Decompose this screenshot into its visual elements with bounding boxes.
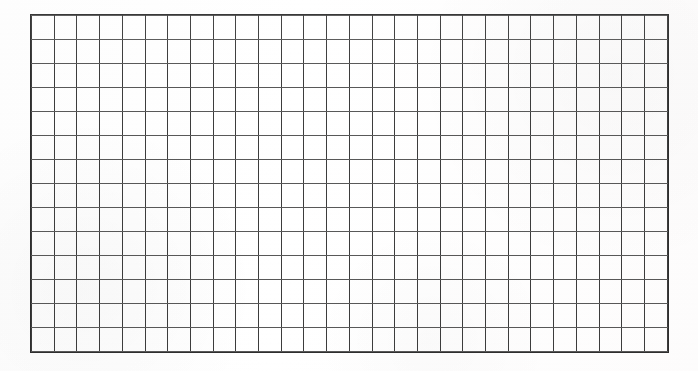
grid-cell[interactable] <box>486 280 509 304</box>
grid-cell[interactable] <box>372 304 395 328</box>
grid-cell[interactable] <box>644 64 667 88</box>
grid-cell[interactable] <box>122 40 145 64</box>
grid-cell[interactable] <box>259 208 282 232</box>
grid-cell[interactable] <box>372 184 395 208</box>
grid-cell[interactable] <box>349 280 372 304</box>
grid-cell[interactable] <box>168 64 191 88</box>
grid-cell[interactable] <box>327 112 350 136</box>
grid-cell[interactable] <box>32 160 55 184</box>
grid-cell[interactable] <box>122 136 145 160</box>
grid-cell[interactable] <box>395 88 418 112</box>
grid-cell[interactable] <box>190 184 213 208</box>
grid-cell[interactable] <box>644 184 667 208</box>
grid-cell[interactable] <box>54 208 77 232</box>
grid-cell[interactable] <box>531 304 554 328</box>
grid-cell[interactable] <box>213 328 236 352</box>
grid-cell[interactable] <box>281 304 304 328</box>
grid-cell[interactable] <box>304 280 327 304</box>
grid-cell[interactable] <box>576 280 599 304</box>
grid-cell[interactable] <box>622 304 645 328</box>
grid-cell[interactable] <box>349 208 372 232</box>
grid-cell[interactable] <box>100 328 123 352</box>
grid-cell[interactable] <box>168 112 191 136</box>
grid-cell[interactable] <box>145 328 168 352</box>
grid-cell[interactable] <box>622 16 645 40</box>
grid-cell[interactable] <box>508 40 531 64</box>
grid-cell[interactable] <box>508 112 531 136</box>
grid-cell[interactable] <box>644 40 667 64</box>
grid-cell[interactable] <box>327 136 350 160</box>
grid-cell[interactable] <box>327 16 350 40</box>
grid-cell[interactable] <box>304 64 327 88</box>
grid-cell[interactable] <box>463 112 486 136</box>
grid-cell[interactable] <box>463 184 486 208</box>
grid-cell[interactable] <box>32 304 55 328</box>
grid-cell[interactable] <box>486 40 509 64</box>
grid-cell[interactable] <box>508 328 531 352</box>
grid-cell[interactable] <box>349 40 372 64</box>
grid-cell[interactable] <box>531 112 554 136</box>
grid-cell[interactable] <box>486 112 509 136</box>
grid-cell[interactable] <box>531 88 554 112</box>
grid-cell[interactable] <box>100 304 123 328</box>
grid-cell[interactable] <box>486 136 509 160</box>
grid-cell[interactable] <box>372 88 395 112</box>
grid-cell[interactable] <box>440 40 463 64</box>
grid-cell[interactable] <box>395 304 418 328</box>
grid-cell[interactable] <box>168 136 191 160</box>
grid-cell[interactable] <box>395 184 418 208</box>
grid-cell[interactable] <box>463 16 486 40</box>
grid-cell[interactable] <box>576 64 599 88</box>
grid-cell[interactable] <box>531 256 554 280</box>
grid-cell[interactable] <box>190 136 213 160</box>
grid-cell[interactable] <box>327 64 350 88</box>
grid-cell[interactable] <box>32 136 55 160</box>
grid-cell[interactable] <box>576 256 599 280</box>
grid-cell[interactable] <box>440 280 463 304</box>
grid-cell[interactable] <box>372 40 395 64</box>
grid-cell[interactable] <box>372 112 395 136</box>
grid-cell[interactable] <box>304 256 327 280</box>
grid-cell[interactable] <box>281 160 304 184</box>
grid-cell[interactable] <box>100 208 123 232</box>
grid-cell[interactable] <box>417 304 440 328</box>
grid-cell[interactable] <box>395 256 418 280</box>
grid-cell[interactable] <box>54 136 77 160</box>
grid-cell[interactable] <box>508 160 531 184</box>
grid-cell[interactable] <box>32 256 55 280</box>
grid-cell[interactable] <box>599 232 622 256</box>
grid-cell[interactable] <box>644 88 667 112</box>
grid-cell[interactable] <box>281 136 304 160</box>
grid-cell[interactable] <box>236 184 259 208</box>
grid-cell[interactable] <box>122 64 145 88</box>
grid-cell[interactable] <box>531 40 554 64</box>
grid-cell[interactable] <box>190 208 213 232</box>
grid-cell[interactable] <box>440 304 463 328</box>
grid-cell[interactable] <box>259 256 282 280</box>
grid-cell[interactable] <box>281 112 304 136</box>
grid-cell[interactable] <box>599 160 622 184</box>
grid-cell[interactable] <box>349 328 372 352</box>
grid-cell[interactable] <box>304 184 327 208</box>
grid-cell[interactable] <box>77 280 100 304</box>
grid-cell[interactable] <box>213 88 236 112</box>
grid-cell[interactable] <box>372 328 395 352</box>
grid-cell[interactable] <box>168 160 191 184</box>
grid-cell[interactable] <box>77 256 100 280</box>
grid-cell[interactable] <box>236 64 259 88</box>
grid-cell[interactable] <box>259 16 282 40</box>
grid-cell[interactable] <box>100 16 123 40</box>
grid-cell[interactable] <box>190 304 213 328</box>
grid-cell[interactable] <box>486 64 509 88</box>
grid-cell[interactable] <box>576 184 599 208</box>
grid-cell[interactable] <box>644 16 667 40</box>
grid-cell[interactable] <box>486 328 509 352</box>
grid-cell[interactable] <box>145 280 168 304</box>
grid-cell[interactable] <box>327 40 350 64</box>
grid-cell[interactable] <box>417 160 440 184</box>
grid-cell[interactable] <box>395 328 418 352</box>
grid-cell[interactable] <box>281 88 304 112</box>
grid-cell[interactable] <box>190 256 213 280</box>
grid-cell[interactable] <box>349 160 372 184</box>
grid-cell[interactable] <box>554 208 577 232</box>
